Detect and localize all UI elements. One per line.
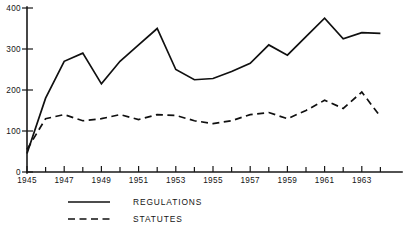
chart-legend: REGULATIONSSTATUTES	[68, 197, 202, 224]
y-axis-labels: 0100200300400	[6, 4, 21, 177]
line-chart: 0100200300400 19451947194919511953195519…	[0, 0, 419, 226]
y-tick-label: 100	[6, 127, 21, 136]
x-tick-label: 1959	[278, 176, 298, 185]
legend-label-statutes: STATUTES	[133, 214, 183, 224]
y-tick-label: 200	[6, 86, 21, 95]
x-tick-label: 1949	[92, 176, 112, 185]
x-axis-ticks	[27, 166, 380, 172]
x-tick-label: 1955	[203, 176, 223, 185]
x-tick-label: 1945	[17, 176, 37, 185]
x-axis-labels: 1945194719491951195319551957195919611963	[17, 176, 372, 185]
x-tick-label: 1961	[315, 176, 335, 185]
x-tick-label: 1953	[166, 176, 186, 185]
series-line-statutes	[27, 92, 380, 149]
legend-label-regulations: REGULATIONS	[133, 197, 202, 207]
x-tick-label: 1947	[54, 176, 74, 185]
series-line-regulations	[27, 18, 380, 153]
y-tick-label: 400	[6, 4, 21, 13]
data-series-group	[27, 18, 380, 153]
chart-container: 0100200300400 19451947194919511953195519…	[0, 0, 419, 226]
x-tick-label: 1951	[129, 176, 149, 185]
x-tick-label: 1963	[352, 176, 372, 185]
x-tick-label: 1957	[240, 176, 260, 185]
y-tick-label: 300	[6, 45, 21, 54]
